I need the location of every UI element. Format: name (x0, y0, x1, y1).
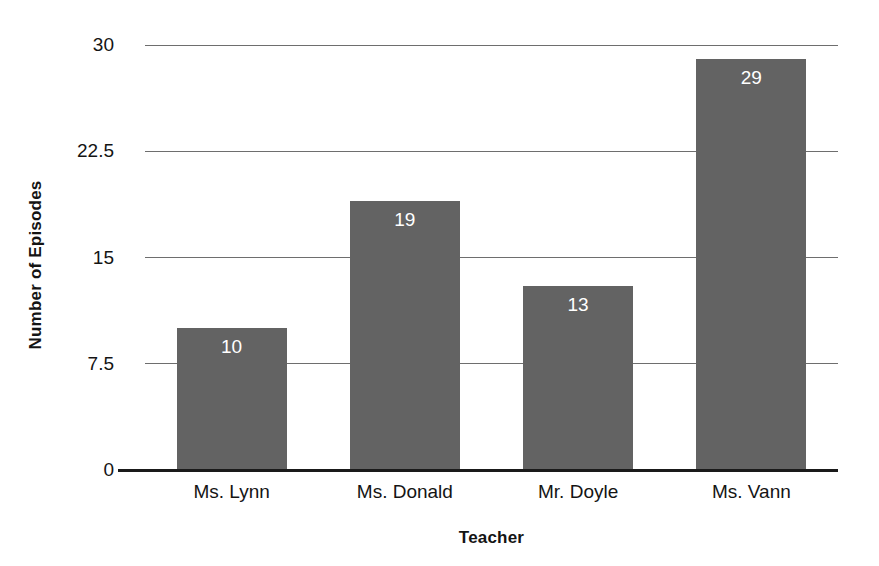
x-axis-tick-label: Ms. Vann (665, 482, 838, 501)
x-axis-tick-label: Ms. Donald (318, 482, 491, 501)
x-axis-tick-label: Mr. Doyle (492, 482, 665, 501)
x-axis-tick-label: Ms. Lynn (145, 482, 318, 501)
bar-chart-figure: Number of Episodes 07.51522.530 10191329… (0, 0, 879, 566)
bar[interactable]: 10 (177, 328, 287, 470)
bar[interactable]: 13 (523, 286, 633, 470)
x-axis-line (118, 469, 838, 472)
bar-value-label: 29 (696, 68, 806, 87)
bar[interactable]: 29 (696, 59, 806, 470)
x-axis-title: Teacher (145, 528, 838, 548)
bar-value-label: 13 (523, 295, 633, 314)
bar-value-label: 10 (177, 337, 287, 356)
bar-value-label: 19 (350, 210, 460, 229)
bar[interactable]: 19 (350, 201, 460, 470)
